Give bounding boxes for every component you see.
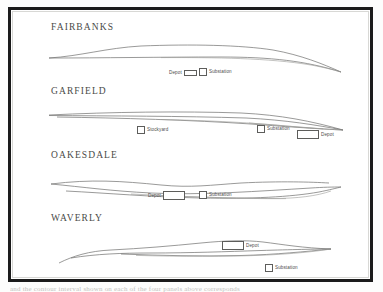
legend-label-depot: Depot xyxy=(246,243,259,249)
legend-marker-depot: Depot xyxy=(169,70,197,76)
page-frame: FAIRBANKS Depot Substation GARFIELD xyxy=(8,7,373,282)
panel-title-garfield: GARFIELD xyxy=(51,86,107,96)
legend-label-stockyard: Stockyard xyxy=(147,127,168,133)
map-panel-garfield: GARFIELD Stockyard Substation Depot xyxy=(11,86,370,149)
legend-label-depot: Depot xyxy=(169,70,182,76)
map-panel-waverly: WAVERLY Depot Substation xyxy=(11,213,370,276)
map-panel-oakesdale: OAKESDALE Depot Substation xyxy=(11,150,370,213)
scanned-page: FAIRBANKS Depot Substation GARFIELD xyxy=(0,0,383,292)
contour-lines-garfield xyxy=(11,96,370,148)
page-bottom-cutoff-text: and the contour interval shown on each o… xyxy=(10,285,373,292)
legend-swatch-substation-icon xyxy=(257,125,265,133)
legend-swatch-depot-icon xyxy=(297,130,319,139)
legend-marker-substation: Substation xyxy=(199,191,232,199)
contour-lines-oakesdale xyxy=(11,160,370,212)
panel-title-fairbanks: FAIRBANKS xyxy=(51,22,114,32)
panel-title-oakesdale: OAKESDALE xyxy=(51,150,118,160)
legend-marker-stockyard: Stockyard xyxy=(137,126,168,134)
legend-swatch-substation-icon xyxy=(265,264,273,272)
map-panel-fairbanks: FAIRBANKS Depot Substation xyxy=(11,22,370,85)
legend-swatch-depot-icon xyxy=(163,191,185,200)
legend-marker-depot: Depot xyxy=(222,241,259,250)
legend-label-depot: Depot xyxy=(321,132,334,138)
legend-label-substation: Substation xyxy=(209,192,232,198)
legend-label-substation: Substation xyxy=(209,69,232,75)
legend-swatch-depot-icon xyxy=(184,70,197,76)
legend-label-substation: Substation xyxy=(275,265,298,271)
contour-lines-fairbanks xyxy=(11,32,370,84)
legend-label-substation: Substation xyxy=(267,126,290,132)
legend-marker-depot: Depot xyxy=(148,191,185,200)
contour-lines-waverly xyxy=(11,223,370,275)
legend-swatch-depot-icon xyxy=(222,241,244,250)
panel-title-waverly: WAVERLY xyxy=(51,213,103,223)
legend-swatch-stockyard-icon xyxy=(137,126,145,134)
legend-marker-substation: Substation xyxy=(265,264,298,272)
legend-swatch-substation-icon xyxy=(199,68,207,76)
legend-marker-substation: Substation xyxy=(257,125,290,133)
legend-marker-depot: Depot xyxy=(297,130,334,139)
legend-marker-substation: Substation xyxy=(199,68,232,76)
legend-swatch-substation-icon xyxy=(199,191,207,199)
legend-label-depot: Depot xyxy=(148,193,161,199)
